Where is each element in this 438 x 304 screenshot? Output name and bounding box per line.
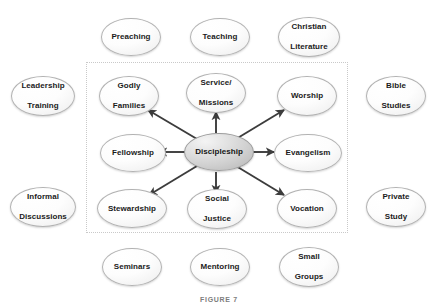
node-label-line2: Discussions: [13, 212, 73, 222]
node-small-groups[interactable]: Small Groups: [279, 247, 339, 287]
node-label-line2: Groups: [282, 272, 336, 282]
node-service-missions[interactable]: Service/ Missions: [186, 73, 246, 113]
node-teaching[interactable]: Teaching: [190, 18, 250, 56]
node-label-line1: Godly: [102, 81, 156, 91]
node-label-line2: Training: [14, 101, 72, 111]
node-label-line2: Justice: [190, 214, 244, 224]
node-label: Worship: [280, 91, 334, 101]
node-preaching[interactable]: Preaching: [101, 18, 161, 56]
node-label-line1: Informal: [13, 192, 73, 202]
diagram-canvas: Discipleship Godly Families Service/ Mis…: [0, 0, 438, 304]
node-discipleship[interactable]: Discipleship: [184, 133, 254, 171]
node-leadership-training[interactable]: Leadership Training: [11, 76, 75, 116]
node-label-line1: Christian: [281, 22, 337, 32]
node-worship[interactable]: Worship: [277, 76, 337, 116]
node-label: Vocation: [280, 204, 334, 214]
node-label-line1: Social: [190, 194, 244, 204]
node-mentoring[interactable]: Mentoring: [190, 248, 250, 286]
node-label-line2: Families: [102, 101, 156, 111]
node-label: Stewardship: [100, 204, 164, 214]
node-godly-families[interactable]: Godly Families: [99, 76, 159, 116]
node-label: Discipleship: [187, 147, 251, 157]
node-label-line2: Study: [369, 212, 423, 222]
node-social-justice[interactable]: Social Justice: [187, 189, 247, 229]
node-stewardship[interactable]: Stewardship: [97, 189, 167, 228]
node-label-line1: Small: [282, 252, 336, 262]
node-label: Teaching: [193, 32, 247, 42]
node-christian-literature[interactable]: Christian Literature: [278, 17, 340, 57]
node-informal-discussions[interactable]: Informal Discussions: [10, 187, 76, 227]
node-label-line1: Service/: [189, 78, 243, 88]
node-private-study[interactable]: Private Study: [366, 187, 426, 227]
node-label-line1: Bible: [369, 81, 423, 91]
node-evangelism[interactable]: Evangelism: [274, 134, 342, 172]
node-label-line2: Studies: [369, 101, 423, 111]
node-label: Fellowship: [103, 148, 163, 158]
node-label-line2: Missions: [189, 98, 243, 108]
node-vocation[interactable]: Vocation: [277, 189, 337, 228]
node-label: Evangelism: [277, 148, 339, 158]
node-seminars[interactable]: Seminars: [102, 248, 162, 286]
node-fellowship[interactable]: Fellowship: [100, 134, 166, 172]
figure-caption: FIGURE 7: [0, 296, 438, 303]
node-bible-studies[interactable]: Bible Studies: [366, 76, 426, 116]
node-label-line1: Private: [369, 192, 423, 202]
node-label-line2: Literature: [281, 42, 337, 52]
node-label: Mentoring: [193, 262, 247, 272]
node-label-line1: Leadership: [14, 81, 72, 91]
node-label: Seminars: [105, 262, 159, 272]
node-label: Preaching: [104, 32, 158, 42]
